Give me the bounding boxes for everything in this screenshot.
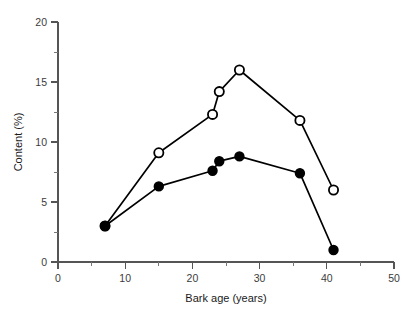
- data-point-open-circle-series: [235, 65, 244, 74]
- data-series-group: [100, 65, 338, 254]
- data-point-open-circle-series: [208, 110, 217, 119]
- data-point-filled-circle-series: [235, 152, 244, 161]
- data-point-open-circle-series: [295, 116, 304, 125]
- data-point-filled-circle-series: [101, 222, 110, 231]
- x-tick-label: 10: [119, 272, 131, 284]
- data-point-filled-circle-series: [154, 182, 163, 191]
- y-tick-label: 0: [41, 256, 47, 268]
- data-point-filled-circle-series: [296, 169, 305, 178]
- x-tick-label: 0: [55, 272, 61, 284]
- data-point-open-circle-series: [215, 87, 224, 96]
- data-point-open-circle-series: [329, 185, 338, 194]
- data-point-filled-circle-series: [329, 246, 338, 255]
- data-point-filled-circle-series: [208, 166, 217, 175]
- chart-figure: 01020304050 05101520 Bark age (years) Co…: [0, 0, 416, 314]
- data-point-open-circle-series: [154, 148, 163, 157]
- x-tick-label: 30: [254, 272, 266, 284]
- chart-plot-area: 01020304050 05101520 Bark age (years) Co…: [0, 0, 416, 314]
- x-axis-title: Bark age (years): [185, 292, 266, 304]
- x-tick-label: 40: [321, 272, 333, 284]
- data-point-filled-circle-series: [215, 157, 224, 166]
- x-axis-ticks: 01020304050: [55, 262, 400, 284]
- x-tick-label: 50: [388, 272, 400, 284]
- x-tick-label: 20: [187, 272, 199, 284]
- y-tick-label: 10: [35, 136, 47, 148]
- y-tick-label: 5: [41, 196, 47, 208]
- y-axis-ticks: 05101520: [35, 16, 58, 268]
- y-axis-title: Content (%): [12, 113, 24, 172]
- y-tick-label: 20: [35, 16, 47, 28]
- y-tick-label: 15: [35, 76, 47, 88]
